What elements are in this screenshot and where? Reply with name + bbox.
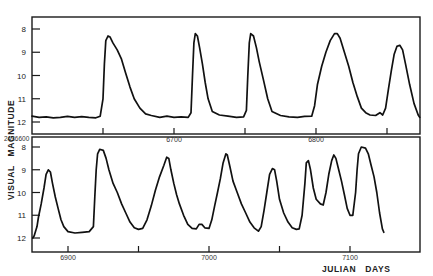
y-tick-label: 12	[17, 234, 26, 243]
x-tick-label: 7100	[342, 254, 358, 261]
y-tick-label: 10	[17, 189, 26, 198]
top-y-axis-ticks: 89101112	[17, 25, 40, 127]
y-tick-label: 11	[18, 95, 27, 104]
x-tick-label: 6900	[60, 254, 76, 261]
bottom-x-axis-ticks: 690070007100	[60, 246, 358, 261]
y-axis-title: VISUAL MAGNITUDE	[6, 100, 16, 200]
x-tick-label: 7000	[201, 254, 217, 261]
y-tick-label: 8	[22, 25, 27, 34]
y-tick-label: 11	[18, 211, 27, 220]
y-tick-label: 12	[17, 118, 26, 127]
light-curve-chart: 89101112 89101112 67006800 690070007100 …	[0, 0, 433, 276]
x-tick-label: 6700	[166, 136, 182, 143]
bottom-light-curve	[33, 147, 384, 238]
y-tick-label: 9	[22, 48, 27, 57]
y-tick-label: 8	[22, 143, 27, 152]
top-x-axis-ticks: 67006800	[103, 128, 387, 143]
top-light-curve	[32, 34, 420, 118]
x-axis-title: JULIAN DAYS	[322, 264, 390, 274]
x-tick-label: 6800	[308, 136, 324, 143]
y-tick-label: 9	[22, 166, 27, 175]
y-tick-label: 10	[17, 72, 26, 81]
